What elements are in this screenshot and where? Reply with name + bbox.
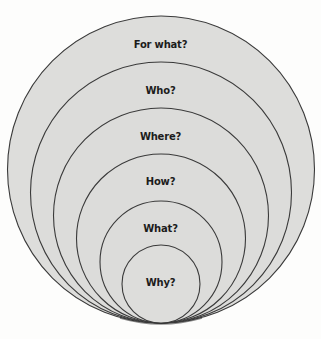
label-what: What? — [0, 223, 321, 235]
label-where: Where? — [0, 131, 321, 143]
label-why: Why? — [0, 277, 321, 289]
label-how: How? — [0, 176, 321, 188]
diagram-canvas: For what? Who? Where? How? What? Why? — [0, 0, 321, 339]
label-for-what: For what? — [0, 39, 321, 51]
label-who: Who? — [0, 85, 321, 97]
